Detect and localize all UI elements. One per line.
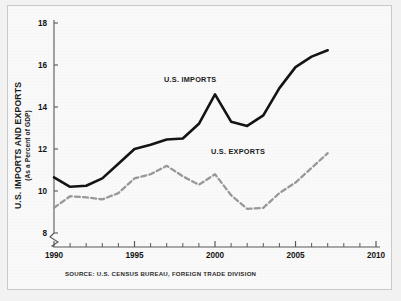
x-tick-label: 1995 [125, 251, 144, 260]
series-line-imports [54, 50, 328, 187]
y-axis-title: U.S. IMPORTS AND EXPORTS (As a Percent o… [12, 50, 34, 240]
x-tick-label: 2005 [286, 251, 305, 260]
series-label-exports: U.S. EXPORTS [211, 147, 265, 156]
y-tick-label: 18 [38, 19, 48, 28]
y-tick-label: 12 [38, 145, 48, 154]
series-label-imports: U.S. IMPORTS [164, 75, 216, 84]
y-axis-title-main: U.S. IMPORTS AND EXPORTS [14, 81, 24, 208]
y-tick-label: 10 [38, 187, 48, 196]
y-axis-title-sub: (As a Percent of GDP) [24, 81, 33, 208]
y-tick-label: 14 [38, 103, 48, 112]
y-tick-label: 8 [42, 229, 47, 238]
chart-plot-area: 8101214161819901995200020052010 [8, 6, 392, 290]
x-tick-label: 2010 [367, 251, 386, 260]
x-tick-label: 1990 [45, 251, 64, 260]
y-tick-label: 16 [38, 61, 48, 70]
x-tick-label: 2000 [206, 251, 225, 260]
source-note: SOURCE: U.S. CENSUS BUREAU, FOREIGN TRAD… [65, 270, 256, 277]
chart-figure: U.S. IMPORTS AND EXPORTS (As a Percent o… [7, 5, 392, 290]
